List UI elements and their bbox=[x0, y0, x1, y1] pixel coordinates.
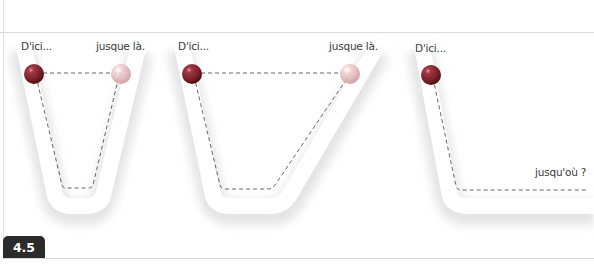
panel-1-start-label: D'ici... bbox=[21, 40, 52, 52]
figure-number-badge: 4.5 bbox=[3, 236, 45, 258]
panel-3-ball-start bbox=[421, 65, 441, 85]
figure-4-5: D'ici... jusque là. D'ici... jusque là. … bbox=[0, 0, 594, 266]
panel-3-end-label: jusqu'où ? bbox=[535, 166, 586, 178]
panel-1-end-label: jusque là. bbox=[96, 40, 145, 52]
panel-2-ball-start bbox=[182, 64, 202, 84]
panel-2-start-label: D'ici... bbox=[178, 40, 209, 52]
panel-2-ball-end bbox=[340, 64, 360, 84]
panel-3-track bbox=[420, 46, 594, 212]
panel-2-end-label: jusque là. bbox=[329, 40, 378, 52]
track-illustration bbox=[0, 0, 594, 266]
panel-1-ball-end bbox=[111, 64, 131, 84]
bottom-divider bbox=[3, 258, 594, 259]
panel-1-ball-start bbox=[24, 64, 44, 84]
panel-3-start-label: D'ici... bbox=[415, 42, 446, 54]
